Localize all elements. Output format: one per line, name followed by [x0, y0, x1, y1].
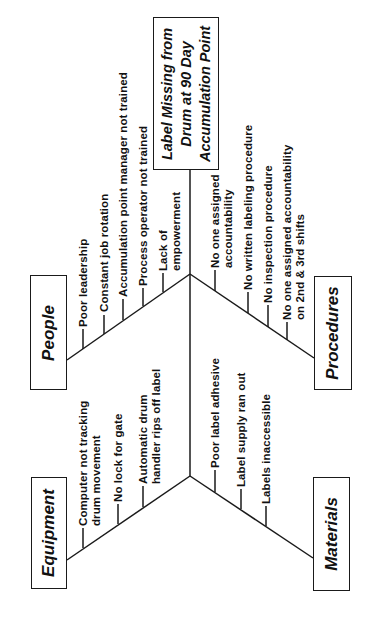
- cause-procedures-1: No one assigned accountability: [209, 174, 235, 268]
- category-label-procedures: Procedures: [323, 286, 343, 380]
- category-box-people: People: [30, 275, 67, 390]
- category-label-people: People: [39, 305, 59, 361]
- category-label-materials: Materials: [322, 497, 342, 571]
- cause-equipment-2: No lock for gate: [112, 413, 125, 502]
- category-label-equipment: Equipment: [39, 489, 59, 577]
- effect-label: Label Missing from Drum at 90 Day Accumu…: [158, 25, 215, 161]
- cause-people-4: Process operator not trained: [137, 126, 150, 286]
- cause-equipment-1: Computer not tracking drum movement: [77, 401, 103, 526]
- cause-procedures-2: No written labeling procedure: [242, 125, 255, 290]
- cause-equipment-3: Automatic drum handler rips off label: [137, 369, 163, 484]
- effect-box: Label Missing from Drum at 90 Day Accumu…: [153, 17, 219, 170]
- cause-materials-3: Labels inaccessible: [260, 394, 273, 504]
- cause-people-5: Lack of empowerment: [157, 192, 183, 271]
- cause-procedures-3: No inspection procedure: [262, 165, 275, 303]
- category-box-equipment: Equipment: [31, 477, 67, 589]
- effect-line-3: Accumulation Point: [196, 25, 215, 161]
- cause-people-1: Poor leadership: [77, 239, 90, 327]
- effect-line-2: Drum at 90 Day: [177, 25, 196, 161]
- cause-materials-1: Poor label adhesive: [209, 358, 222, 468]
- cause-procedures-4: No one assigned accountability on 2nd & …: [281, 144, 307, 320]
- cause-people-3: Accumulation point manager not trained: [117, 72, 130, 297]
- category-box-procedures: Procedures: [314, 276, 352, 390]
- cause-materials-2: Label supply ran out: [235, 373, 248, 487]
- effect-line-1: Label Missing from: [158, 25, 177, 161]
- category-box-materials: Materials: [313, 477, 350, 591]
- cause-people-2: Constant job rotation: [98, 194, 111, 312]
- bone-materials: [190, 476, 313, 558]
